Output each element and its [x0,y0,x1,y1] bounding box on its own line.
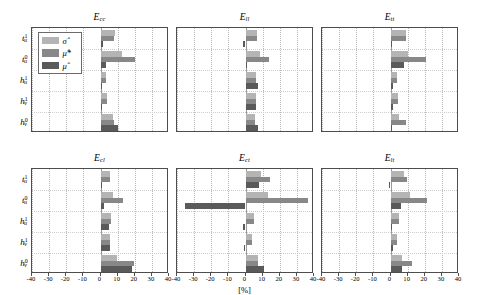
gridline-horizontal [32,253,167,255]
gridline-vertical [118,169,120,272]
legend-swatch-mustar [42,49,59,57]
gridline-horizontal [177,91,312,93]
y-tick-subscript: v [24,241,27,247]
gridline-vertical [408,169,410,272]
gridline-vertical [425,28,427,131]
legend-item-sigma[interactable]: σ̂ [42,36,78,46]
gridline-vertical [32,169,34,272]
x-axis-tick-label: 10 [258,275,265,282]
bar-Elt-t0_u-mu_hat [391,203,401,208]
bar-Ett-t1_u-mu_hat [391,41,392,46]
bar-Ecl-h1_u-mu_hat [101,224,110,229]
gridline-vertical [49,169,51,272]
y-axis-tick-label: t1u [22,173,31,184]
bar-Ect-h0_v-mu_hat [246,266,265,271]
bar-Ect-t0_u-mu_hat_star [246,198,309,203]
gridline-horizontal [32,211,167,213]
y-axis-tick-label: h1v [20,236,31,247]
panel-Ecl: Eclt1ut0uh1uh1vh0v-40-30-20-10010203040 [31,168,168,273]
gridline-horizontal [177,49,312,51]
y-tick-subscript: v [24,100,27,106]
gridline-horizontal [322,112,457,114]
x-axis-tick-label: 40 [310,275,317,282]
x-axis-tick-label: 40 [165,275,172,282]
y-axis-tick-label: t0u [22,194,31,205]
bar-Ect-t0_u-mu_hat [185,203,246,208]
x-axis-tick-label: 10 [403,275,410,282]
gridline-horizontal [32,91,167,93]
bar-Elt-t1_u-mu_hat [389,182,391,187]
bar-Ell-t0_u-mu_hat_star [246,57,269,62]
gridline-vertical [194,28,196,131]
x-axis-tick-label: 30 [438,275,445,282]
legend-item-mu[interactable]: μ̂ [42,61,78,71]
panel-title-subscript: ll [246,15,250,22]
plot-area-Ett [321,27,458,132]
gridline-horizontal [177,232,312,234]
bar-Ect-h1_v-mu_hat_star [246,240,253,245]
x-axis-tick-label: 0 [388,275,391,282]
bar-Ect-t1_u-mu_hat [246,182,260,187]
x-axis-tick-label: 10 [113,275,120,282]
gridline-vertical [135,169,137,272]
gridline-vertical [263,169,265,272]
legend-label-mustar: μ̂* [63,48,72,58]
x-axis-label: [%] [238,285,251,295]
gridline-vertical [297,169,299,272]
y-axis-tick-label: t0u [22,53,31,64]
gridline-horizontal [32,232,167,234]
panel-title-subscript: ct [245,156,250,163]
gridline-vertical [177,28,179,131]
x-axis-tick-label: 20 [130,275,137,282]
panel-title-Ect: Ect [176,153,313,163]
x-axis-tick-label: -10 [368,275,377,282]
legend-item-mustar[interactable]: μ̂* [42,48,78,58]
bar-Ecc-t1_u-mu_hat [101,41,104,46]
y-tick-subscript: u [24,58,27,64]
y-tick-subscript: u [24,178,27,184]
gridline-vertical [373,28,375,131]
panel-title-Ecc: Ecc [31,12,168,22]
x-axis-tick-label: 40 [455,275,462,282]
gridline-vertical [83,169,85,272]
bar-Ett-t0_u-mu_hat [391,62,405,67]
bar-Ecc-h0_v-mu_hat [101,125,118,130]
plot-area-Ecl [31,168,168,273]
x-axis-tick-label: -30 [189,275,198,282]
gridline-horizontal [32,190,167,192]
x-axis-tick-label: 30 [148,275,155,282]
gridline-vertical [297,28,299,131]
panel-Ect: Ect-40-30-20-10010203040 [176,168,313,273]
bar-Ecc-h1_v-mu_hat_star [101,99,108,104]
gridline-vertical [322,169,324,272]
gridline-horizontal [322,190,457,192]
bar-Ect-h1_u-mu_hat [243,224,246,229]
panel-Elt: Elt-40-30-20-10010203040 [321,168,458,273]
panel-title-Elt: Elt [321,153,458,163]
gridline-vertical [66,169,68,272]
gridline-horizontal [177,70,312,72]
gridline-horizontal [32,112,167,114]
bar-Ell-h1_u-mu_hat [246,83,259,88]
x-axis-tick-label: -10 [78,275,87,282]
x-axis-tick-label: 0 [243,275,246,282]
y-axis-tick-label: h1v [20,95,31,106]
gridline-horizontal [322,253,457,255]
gridline-vertical [228,28,230,131]
panel-title-Ett: Ett [321,12,458,22]
bar-Elt-h0_v-mu_hat [391,266,402,271]
y-tick-subscript: v [24,262,27,268]
x-axis-tick-label: -20 [351,275,360,282]
bar-Ett-t1_u-mu_hat_star [391,36,406,41]
gridline-vertical [228,169,230,272]
bar-Ecc-t0_u-mu_hat_star [101,57,135,62]
panel-title-Ell: Ell [176,12,313,22]
y-axis-tick-label: h1u [20,215,31,226]
legend-label-mu: μ̂ [63,61,67,71]
bar-Ecl-t1_u-mu_hat_star [101,177,110,182]
y-tick-subscript: u [24,79,27,85]
plot-area-Elt [321,168,458,273]
x-axis-tick-label: 0 [98,275,101,282]
gridline-vertical [211,28,213,131]
y-axis-tick-label: h0v [20,257,31,268]
